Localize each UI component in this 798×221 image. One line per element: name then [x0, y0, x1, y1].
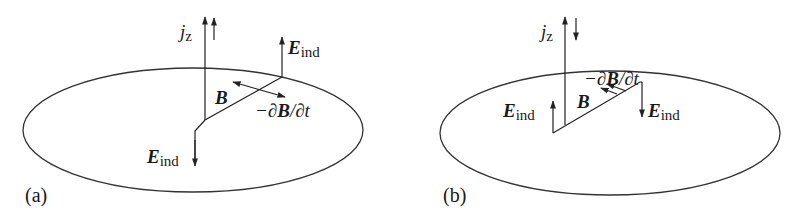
- minus-dbdt-label: −∂B/∂t: [255, 100, 311, 121]
- panel-a: jz Eind Eind B −∂B/∂t (a): [23, 17, 363, 207]
- b-field-arrow: [233, 82, 257, 89]
- b-field-label: B: [576, 91, 590, 112]
- conductor-disk-ellipse: [23, 68, 363, 192]
- loop-path: [553, 82, 642, 133]
- b-field-label: B: [214, 87, 228, 108]
- panel-a-label: (a): [25, 184, 47, 207]
- current-label: jz: [538, 21, 553, 44]
- e-ind-right-label: Eind: [647, 100, 680, 123]
- conductor-disk-ellipse: [440, 71, 780, 195]
- panel-b-label: (b): [443, 184, 466, 207]
- current-label: jz: [177, 21, 192, 44]
- panel-b: jz Eind Eind B −∂B/∂t (b): [440, 17, 780, 207]
- e-ind-top-label: Eind: [287, 37, 320, 60]
- minus-dbdt-label: −∂B/∂t: [584, 68, 640, 89]
- e-ind-bottom-label: Eind: [146, 146, 179, 169]
- minus-dbdt-arrow: [257, 89, 285, 97]
- figure-canvas: jz Eind Eind B −∂B/∂t (a) jz: [0, 0, 798, 221]
- e-ind-left-label: Eind: [502, 100, 535, 123]
